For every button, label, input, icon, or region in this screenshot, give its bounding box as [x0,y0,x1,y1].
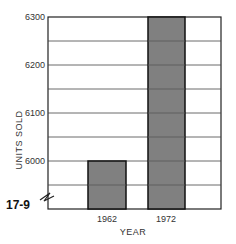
x-axis-label: YEAR [120,227,147,237]
ytick-6300: 6300 [25,12,45,22]
xtick-1962: 1962 [97,214,117,224]
ytick-6100: 6100 [25,108,45,118]
bar-chart: 6300 6200 6100 6000 UNITS SOLD 1962 1972… [0,0,236,244]
y-axis-label: UNITS SOLD [14,110,24,169]
ytick-6200: 6200 [25,60,45,70]
figure-label: 17-9 [6,198,30,212]
xtick-1972: 1972 [156,214,176,224]
ytick-6000: 6000 [25,156,45,166]
